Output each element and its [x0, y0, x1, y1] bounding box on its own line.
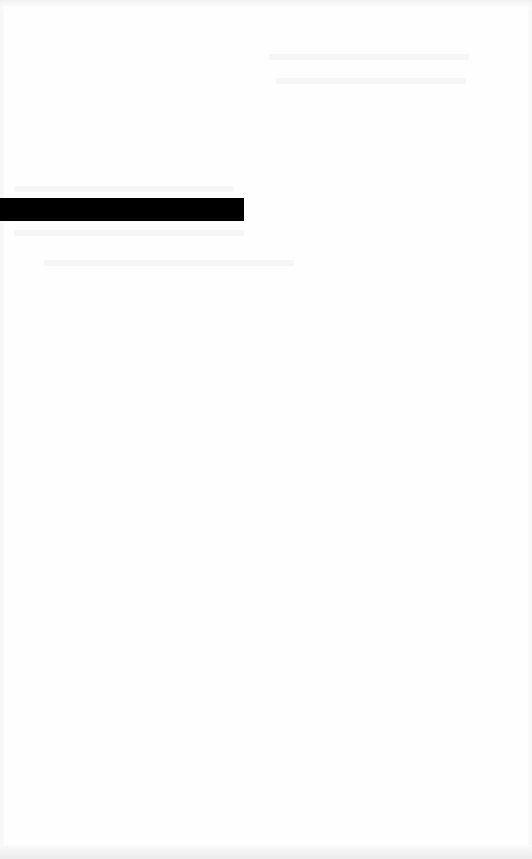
- faint-text-line: [14, 186, 234, 192]
- faint-text-line: [269, 54, 469, 60]
- faint-text-line: [14, 230, 244, 236]
- page-bottom-edge: [0, 845, 532, 859]
- document-page: [4, 6, 528, 849]
- redaction-bar: [0, 198, 244, 221]
- faint-text-line: [276, 78, 466, 84]
- faint-text-line: [44, 260, 294, 266]
